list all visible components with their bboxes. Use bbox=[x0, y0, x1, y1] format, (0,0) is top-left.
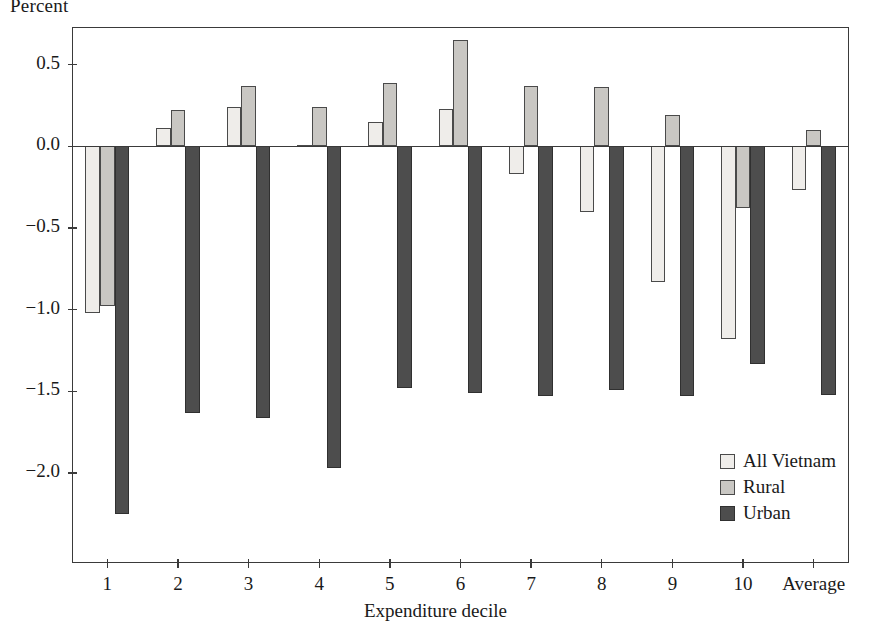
bar-rural-8 bbox=[594, 87, 609, 146]
y-tick-label: −2.0 bbox=[2, 460, 60, 482]
bar-all-vietnam-average bbox=[792, 146, 807, 190]
bar-urban-2 bbox=[185, 146, 200, 412]
y-tick-mark bbox=[68, 64, 77, 65]
x-tick-mark bbox=[319, 559, 320, 568]
bar-urban-4 bbox=[327, 146, 342, 468]
bar-rural-9 bbox=[665, 115, 680, 146]
x-tick-mark bbox=[742, 559, 743, 568]
legend-item-rural: Rural bbox=[720, 474, 836, 500]
legend-swatch-icon bbox=[720, 480, 735, 495]
y-tick-mark bbox=[68, 391, 77, 392]
x-tick-mark bbox=[389, 559, 390, 568]
legend-swatch-icon bbox=[720, 454, 735, 469]
zero-baseline bbox=[72, 146, 849, 147]
bar-all-vietnam-6 bbox=[439, 109, 454, 147]
bar-urban-7 bbox=[538, 146, 553, 396]
x-tick-mark bbox=[460, 559, 461, 568]
y-tick-mark bbox=[68, 472, 77, 473]
y-tick-label: 0.0 bbox=[2, 133, 60, 155]
bar-urban-6 bbox=[468, 146, 483, 393]
y-tick-mark bbox=[68, 227, 77, 228]
x-tick-mark bbox=[601, 559, 602, 568]
legend-label: Rural bbox=[743, 476, 785, 498]
bar-urban-5 bbox=[397, 146, 412, 388]
legend: All VietnamRuralUrban bbox=[720, 448, 836, 526]
bar-rural-4 bbox=[312, 107, 327, 146]
legend-label: Urban bbox=[743, 502, 790, 524]
bar-rural-5 bbox=[383, 83, 398, 147]
bar-rural-10 bbox=[736, 146, 751, 208]
y-tick-label: −1.5 bbox=[2, 378, 60, 400]
x-tick-mark bbox=[107, 559, 108, 568]
bar-all-vietnam-10 bbox=[721, 146, 736, 339]
bar-all-vietnam-5 bbox=[368, 122, 383, 147]
bar-rural-average bbox=[806, 130, 821, 146]
bar-rural-3 bbox=[241, 86, 256, 146]
x-tick-mark bbox=[177, 559, 178, 568]
y-tick-mark bbox=[68, 309, 77, 310]
bar-urban-average bbox=[821, 146, 836, 394]
x-axis-title: Expenditure decile bbox=[0, 600, 871, 622]
x-tick-mark bbox=[813, 559, 814, 568]
bar-urban-10 bbox=[750, 146, 765, 363]
x-tick-label: Average bbox=[759, 573, 869, 595]
legend-swatch-icon bbox=[720, 506, 735, 521]
bar-rural-6 bbox=[453, 40, 468, 146]
bar-all-vietnam-8 bbox=[580, 146, 595, 211]
legend-item-all-vietnam: All Vietnam bbox=[720, 448, 836, 474]
chart-container: Percent 0.50.0−0.5−1.0−1.5−2.0 123456789… bbox=[0, 0, 871, 639]
bar-rural-2 bbox=[171, 110, 186, 146]
y-tick-label: −0.5 bbox=[2, 215, 60, 237]
bar-rural-1 bbox=[100, 146, 115, 306]
x-tick-mark bbox=[248, 559, 249, 568]
bar-urban-1 bbox=[115, 146, 130, 514]
bar-all-vietnam-3 bbox=[227, 107, 242, 146]
y-tick-label: −1.0 bbox=[2, 297, 60, 319]
x-tick-mark bbox=[530, 559, 531, 568]
bar-all-vietnam-7 bbox=[509, 146, 524, 174]
bar-all-vietnam-2 bbox=[156, 128, 171, 146]
bar-rural-7 bbox=[524, 86, 539, 146]
x-tick-mark bbox=[672, 559, 673, 568]
y-tick-label: 0.5 bbox=[2, 52, 60, 74]
bar-urban-9 bbox=[680, 146, 695, 396]
bar-all-vietnam-9 bbox=[651, 146, 666, 282]
legend-label: All Vietnam bbox=[743, 450, 836, 472]
legend-item-urban: Urban bbox=[720, 500, 836, 526]
bar-urban-8 bbox=[609, 146, 624, 389]
bar-all-vietnam-1 bbox=[85, 146, 100, 313]
y-axis-title: Percent bbox=[10, 0, 68, 17]
bar-urban-3 bbox=[256, 146, 271, 417]
